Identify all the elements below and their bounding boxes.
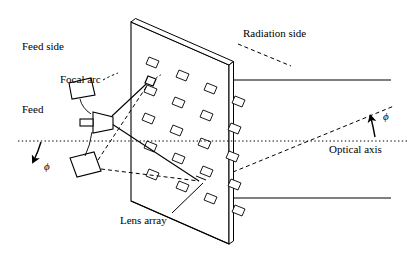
label-phi-right: ϕ	[383, 111, 389, 122]
focal-arc-leaders	[80, 99, 92, 156]
feed-horns	[69, 78, 113, 177]
label-lens-array: Lens array	[120, 215, 167, 226]
figure-root: Feed side Focal arc Feed Radiation side …	[0, 0, 408, 265]
feed-horn-center-stub	[80, 119, 93, 126]
phi-arrow-right	[371, 118, 375, 137]
label-phi-left: ϕ	[44, 161, 50, 172]
focal-arc-leader-upper	[80, 99, 91, 114]
label-feed-side: Feed side	[22, 41, 64, 52]
label-radiation-side: Radiation side	[243, 28, 306, 39]
focal-arc-leader	[103, 73, 118, 80]
label-optical-axis: Optical axis	[329, 144, 382, 155]
feed-horn-center	[93, 112, 113, 133]
radiated-beam-dashed	[233, 106, 394, 172]
radiation-side-leader	[238, 44, 291, 66]
radiation-aperture-lines	[233, 80, 391, 198]
phi-arrow-left	[34, 142, 41, 160]
label-focal-arc: Focal arc	[60, 74, 101, 85]
label-feed: Feed	[22, 104, 43, 115]
